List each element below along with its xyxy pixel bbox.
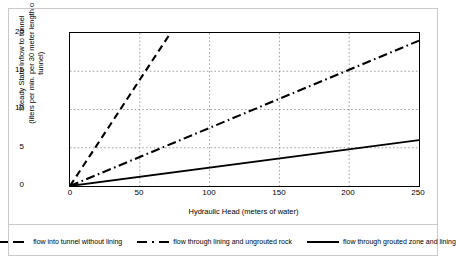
y-axis-title-line-3: tunnel): [36, 0, 46, 133]
chart-legend: flow into tunnel without lining flow thr…: [9, 228, 437, 255]
x-tick-label-100: 100: [197, 189, 221, 197]
x-axis-title: Hydraulic Head (meters of water): [69, 207, 418, 216]
legend-item-flow-grouted-zone-and-lining[interactable]: flow through grouted zone and lining: [306, 238, 456, 246]
x-tick-label-250: 250: [406, 189, 430, 197]
y-tick-label-0: 0: [4, 181, 24, 189]
legend-label-flow-grouted-zone-and-lining: flow through grouted zone and lining: [343, 238, 456, 246]
chart-figure: Steady State Inflow to tunnel (liters pe…: [8, 8, 438, 256]
legend-swatch-solid-icon: [306, 238, 340, 246]
horizontal-gridlines: [70, 71, 419, 148]
chart-canvas: [70, 33, 419, 186]
legend-swatch-dash-dot-icon: [136, 238, 170, 246]
legend-divider: [9, 224, 437, 225]
y-tick-label-20: 20: [4, 28, 24, 36]
series-line-flow-lining-ungrouted-rock: [70, 41, 419, 186]
legend-swatch-dashed-icon: [0, 238, 30, 246]
chart-plot-region: Steady State Inflow to tunnel (liters pe…: [9, 9, 437, 223]
y-tick-label-10: 10: [4, 104, 24, 112]
series-line-flow-grouted-zone-and-lining: [70, 140, 419, 186]
legend-item-flow-without-lining[interactable]: flow into tunnel without lining: [0, 238, 122, 246]
x-tick-label-50: 50: [127, 189, 151, 197]
legend-label-flow-without-lining: flow into tunnel without lining: [33, 238, 122, 246]
y-axis-title-line-2: (liters per min. per 30 meter length o: [26, 0, 36, 133]
y-tick-label-15: 15: [4, 66, 24, 74]
plot-area: [69, 32, 420, 187]
x-tick-label-150: 150: [267, 189, 291, 197]
x-tick-label-0: 0: [58, 189, 82, 197]
legend-item-flow-lining-ungrouted-rock[interactable]: flow through lining and ungrouted rock: [136, 238, 292, 246]
y-tick-label-5: 5: [4, 143, 24, 151]
x-tick-label-200: 200: [336, 189, 360, 197]
legend-label-flow-lining-ungrouted-rock: flow through lining and ungrouted rock: [173, 238, 292, 246]
